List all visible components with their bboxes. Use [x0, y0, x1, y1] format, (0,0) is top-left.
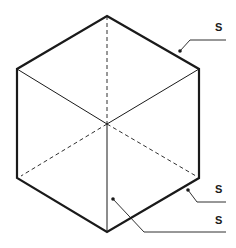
leader-top-edge — [178, 40, 226, 53]
cube-diagram: S S S — [0, 0, 236, 248]
hidden-edge-center-to-lower-left — [21, 124, 107, 176]
hidden-edge-center-to-lower-right — [107, 124, 196, 176]
edge-upper-left-to-center — [17, 69, 107, 124]
edge-upper-right-to-center — [107, 69, 199, 124]
cube-outline — [17, 16, 199, 232]
label-bottom-edge: S — [215, 183, 222, 195]
label-front-face: S — [215, 214, 222, 226]
label-top-edge: S — [215, 21, 222, 33]
